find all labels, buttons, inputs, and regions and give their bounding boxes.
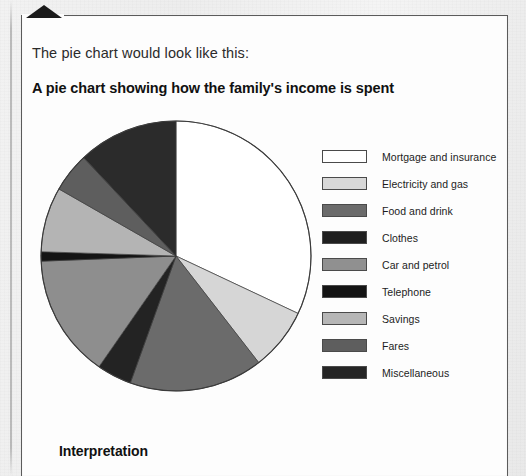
legend-item: Mortgage and insurance	[322, 143, 502, 170]
legend-swatch-icon	[322, 177, 367, 190]
legend-swatch-icon	[322, 204, 367, 217]
legend-item: Clothes	[322, 224, 502, 251]
book-gutter-line	[10, 0, 12, 476]
interpretation-heading: Interpretation	[59, 443, 148, 459]
legend-item: Miscellaneous	[322, 359, 502, 386]
legend-swatch-icon	[322, 339, 367, 352]
legend-item: Car and petrol	[322, 251, 502, 278]
legend-item: Telephone	[322, 278, 502, 305]
legend-swatch-icon	[322, 150, 367, 163]
legend-item-label: Clothes	[382, 232, 418, 244]
chart-title: A pie chart showing how the family's inc…	[32, 80, 394, 96]
pie-chart	[40, 120, 312, 392]
pie-chart-svg	[40, 120, 312, 392]
chart-legend: Mortgage and insuranceElectricity and ga…	[322, 143, 502, 386]
legend-swatch-icon	[322, 366, 367, 379]
legend-swatch-icon	[322, 231, 367, 244]
legend-swatch-icon	[322, 258, 367, 271]
legend-item: Fares	[322, 332, 502, 359]
legend-item-label: Car and petrol	[382, 259, 449, 271]
legend-item-label: Mortgage and insurance	[382, 151, 496, 163]
legend-item-label: Food and drink	[382, 205, 453, 217]
legend-swatch-icon	[322, 285, 367, 298]
legend-item: Food and drink	[322, 197, 502, 224]
legend-item-label: Electricity and gas	[382, 178, 468, 190]
pie-slice-group	[41, 121, 311, 391]
legend-item-label: Savings	[382, 313, 420, 325]
legend-item-label: Telephone	[382, 286, 431, 298]
legend-swatch-icon	[322, 312, 367, 325]
legend-item-label: Fares	[382, 340, 409, 352]
page-corner-triangle-icon	[26, 5, 62, 18]
legend-item-label: Miscellaneous	[382, 367, 449, 379]
legend-item: Electricity and gas	[322, 170, 502, 197]
intro-text: The pie chart would look like this:	[32, 45, 249, 61]
legend-item: Savings	[322, 305, 502, 332]
